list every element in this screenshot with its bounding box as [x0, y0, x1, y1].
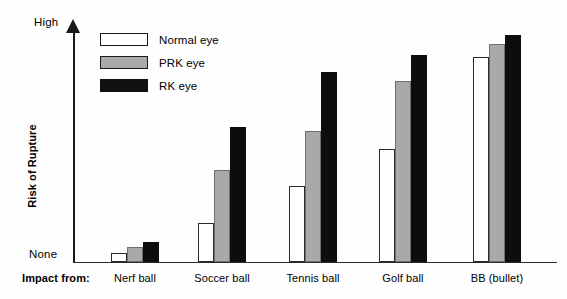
bar-prk-eye	[489, 44, 505, 262]
bar-rk-eye	[411, 55, 427, 262]
bar-group	[198, 22, 246, 262]
bar-normal-eye	[198, 223, 214, 262]
y-axis-bottom-label: None	[29, 248, 57, 260]
bar-prk-eye	[127, 247, 143, 262]
bar-normal-eye	[111, 253, 127, 262]
x-axis-category-label: Golf ball	[353, 272, 453, 284]
x-axis-prefix-label: Impact from:	[22, 272, 90, 284]
bar-rk-eye	[505, 35, 521, 262]
bar-prk-eye	[305, 131, 321, 262]
bar-normal-eye	[473, 57, 489, 262]
bar-rk-eye	[321, 72, 337, 262]
bar-rk-eye	[230, 127, 246, 262]
bar-rk-eye	[143, 242, 159, 262]
x-axis-category-label: BB (bullet)	[447, 272, 547, 284]
y-axis-title: Risk of Rupture	[26, 106, 38, 226]
x-axis-category-label: Soccer ball	[172, 272, 272, 284]
bar-group	[111, 22, 159, 262]
x-axis-category-label: Nerf ball	[85, 272, 185, 284]
risk-of-rupture-bar-chart: High None Risk of Rupture Impact from: N…	[0, 0, 567, 299]
bar-normal-eye	[289, 186, 305, 262]
y-axis-top-label: High	[34, 16, 58, 28]
bar-group	[289, 22, 337, 262]
bar-group	[473, 22, 521, 262]
bar-prk-eye	[395, 81, 411, 262]
bar-normal-eye	[379, 149, 395, 262]
bar-group	[379, 22, 427, 262]
bar-prk-eye	[214, 170, 230, 262]
plot-area	[73, 22, 557, 262]
x-axis-category-label: Tennis ball	[263, 272, 363, 284]
